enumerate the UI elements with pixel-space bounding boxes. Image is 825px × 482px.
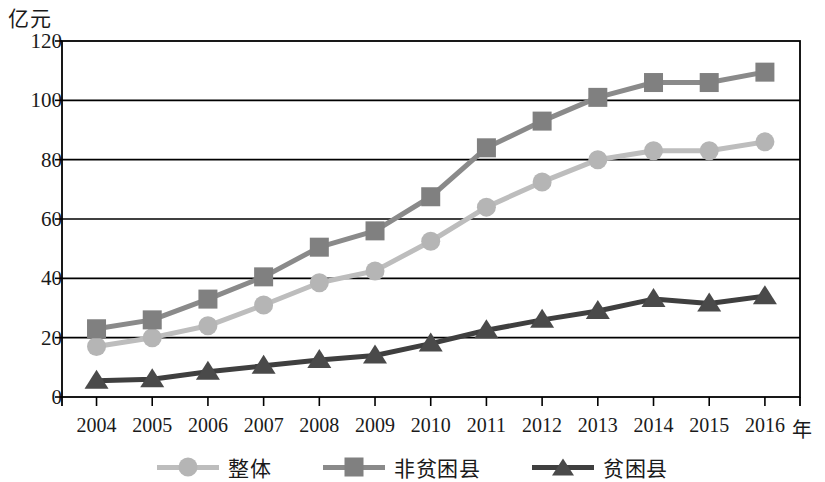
x-axis-label-2009: 2009: [355, 414, 395, 437]
data-point: [588, 88, 607, 107]
legend-marker-square-icon: [323, 456, 385, 478]
data-point: [310, 238, 329, 257]
data-point: [477, 198, 496, 217]
legend-item-non-poor-county[interactable]: 非贫困县: [323, 452, 480, 482]
data-point: [755, 63, 774, 82]
data-point: [143, 328, 162, 347]
x-axis-label-2008: 2008: [299, 414, 339, 437]
data-point: [755, 132, 774, 151]
legend-label-non-poor-county: 非贫困县: [394, 452, 480, 482]
x-axis-label-2004: 2004: [77, 414, 117, 437]
data-point: [366, 221, 385, 240]
line-chart-figure: 亿元 020406080100120 200420052006200720082…: [0, 0, 825, 482]
data-point: [87, 337, 106, 356]
data-point: [644, 73, 663, 92]
x-axis-label-2013: 2013: [578, 414, 618, 437]
data-point: [644, 141, 663, 160]
x-axis-label-2006: 2006: [188, 414, 228, 437]
data-point: [700, 73, 719, 92]
x-axis-label-2010: 2010: [411, 414, 451, 437]
data-point: [198, 290, 217, 309]
legend-marker-triangle-icon: [532, 456, 594, 478]
x-axis-unit-label: 年: [792, 414, 812, 443]
data-point: [143, 310, 162, 329]
data-point: [421, 232, 440, 251]
x-axis-label-2007: 2007: [244, 414, 284, 437]
data-point: [198, 316, 217, 335]
data-point: [753, 285, 777, 304]
data-point: [87, 319, 106, 338]
data-point: [254, 267, 273, 286]
x-axis-label-2015: 2015: [689, 414, 729, 437]
x-axis-label-2011: 2011: [467, 414, 506, 437]
x-axis-label-2016: 2016: [745, 414, 785, 437]
x-axis-label-2014: 2014: [634, 414, 674, 437]
legend-label-poor-county: 贫困县: [603, 452, 668, 482]
data-point: [533, 172, 552, 191]
data-point: [421, 187, 440, 206]
legend-item-poor-county[interactable]: 贫困县: [532, 452, 668, 482]
data-point: [310, 273, 329, 292]
data-point: [254, 296, 273, 315]
data-point: [366, 261, 385, 280]
data-point: [533, 112, 552, 131]
data-point: [477, 138, 496, 157]
legend-label-overall: 整体: [228, 452, 271, 482]
x-axis-label-2005: 2005: [132, 414, 172, 437]
legend-item-overall[interactable]: 整体: [157, 452, 271, 482]
plot-area: [0, 0, 825, 482]
legend-marker-circle-icon: [157, 456, 219, 478]
chart-legend: 整体 非贫困县 贫困县: [0, 452, 825, 482]
x-axis-label-2012: 2012: [522, 414, 562, 437]
data-point: [700, 141, 719, 160]
data-point: [588, 150, 607, 169]
